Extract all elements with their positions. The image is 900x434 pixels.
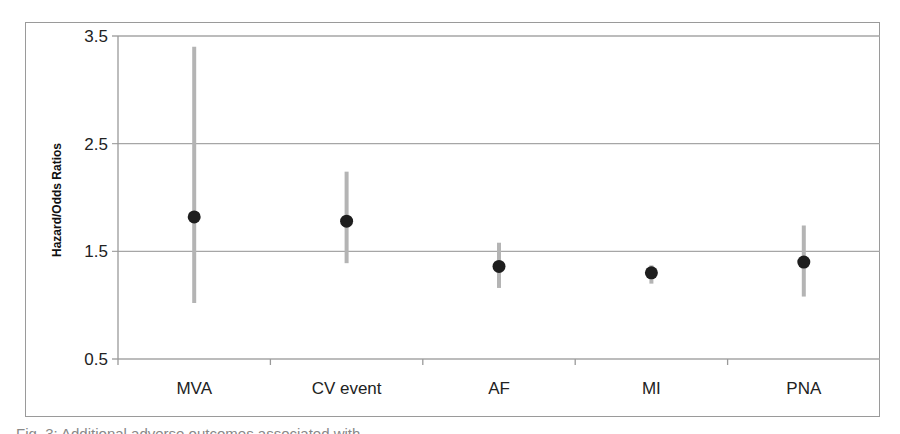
point-estimate-marker	[493, 260, 506, 273]
y-tick-label: 3.5	[84, 27, 108, 46]
x-category-label: MI	[642, 379, 661, 398]
point-estimate-marker	[188, 210, 201, 223]
ratio-chart: 0.51.52.53.5 MVACV eventAFMIPNA Hazard/O…	[0, 0, 900, 434]
point-estimate-marker	[645, 266, 658, 279]
x-category-label: MVA	[176, 379, 212, 398]
y-axis-title: Hazard/Odds Ratios	[50, 143, 64, 257]
y-tick-labels: 0.51.52.53.5	[84, 27, 108, 369]
x-category-label: PNA	[786, 379, 822, 398]
y-tick-label: 0.5	[84, 350, 108, 369]
axes	[118, 36, 728, 365]
gridlines	[112, 36, 880, 359]
figure-caption: Fig. 3: Additional adverse outcomes asso…	[16, 424, 896, 434]
x-category-labels: MVACV eventAFMIPNA	[176, 379, 822, 398]
x-category-label: CV event	[312, 379, 382, 398]
x-category-label: AF	[488, 379, 510, 398]
point-estimate-marker	[797, 256, 810, 269]
point-estimate-marker	[340, 215, 353, 228]
y-tick-label: 1.5	[84, 242, 108, 261]
y-tick-label: 2.5	[84, 135, 108, 154]
